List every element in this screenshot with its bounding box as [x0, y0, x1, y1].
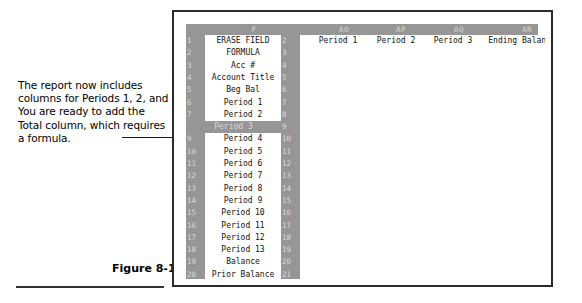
row-number-right[interactable]: 3 — [281, 47, 300, 59]
row-number-left[interactable]: 12 — [186, 170, 205, 182]
field-name-cell[interactable]: Period 6 — [205, 158, 281, 170]
row-number-left[interactable]: 5 — [186, 84, 205, 96]
right-row-number-strip: 23456789101112131415161718192021 — [281, 35, 300, 279]
row-number-right[interactable]: 10 — [281, 133, 300, 145]
field-name-column: ERASE FIELDFORMULAAcc #Account TitleBeg … — [205, 35, 281, 279]
column-header-band: FAOAPAQAR — [186, 24, 538, 35]
row-number-right[interactable]: 13 — [281, 170, 300, 182]
row-number-right[interactable]: 4 — [281, 60, 300, 72]
spreadsheet-viewport: FAOAPAQAR 123456789101112131415161718192… — [180, 18, 545, 279]
row-number-left[interactable]: 6 — [186, 97, 205, 109]
row-number-left[interactable]: 3 — [186, 60, 205, 72]
row-number-left[interactable]: 4 — [186, 72, 205, 84]
field-name-cell[interactable]: Period 13 — [205, 244, 281, 256]
row-number-left[interactable]: 16 — [186, 220, 205, 232]
field-name-cell[interactable]: Beg Bal — [205, 84, 281, 96]
row-number-right[interactable]: 21 — [281, 269, 300, 279]
field-name-cell[interactable]: Period 8 — [205, 183, 281, 195]
column-letter-ap[interactable]: AP — [376, 24, 426, 35]
field-name-cell[interactable]: Acc # — [205, 60, 281, 72]
figure-divider-rule — [16, 286, 164, 288]
row-number-right[interactable]: 9 — [281, 121, 300, 133]
field-name-cell[interactable]: Period 11 — [205, 220, 281, 232]
field-name-cell[interactable]: Period 12 — [205, 232, 281, 244]
row-number-right[interactable]: 8 — [281, 109, 300, 121]
period-header-cell[interactable]: Ending Balance — [472, 35, 545, 47]
left-row-number-strip: 1234567891011121314151617181920 — [186, 35, 205, 279]
row-number-right[interactable]: 5 — [281, 72, 300, 84]
field-name-cell[interactable]: Period 4 — [205, 133, 281, 145]
field-name-cell[interactable]: Period 2 — [205, 109, 281, 121]
row-number-left[interactable]: 17 — [186, 232, 205, 244]
caption-text: The report now includes columns for Peri… — [18, 79, 170, 145]
row-number-left[interactable]: 2 — [186, 47, 205, 59]
field-name-cell[interactable]: Account Title — [205, 72, 281, 84]
row-number-left[interactable]: 11 — [186, 158, 205, 170]
row-number-left[interactable]: 18 — [186, 244, 205, 256]
row-number-right[interactable]: 14 — [281, 183, 300, 195]
column-letter-ao[interactable]: AO — [319, 24, 369, 35]
period-header-cell[interactable]: Period 1 — [306, 35, 370, 47]
row-number-left[interactable]: 13 — [186, 183, 205, 195]
field-name-cell[interactable]: Period 10 — [205, 207, 281, 219]
row-number-right[interactable]: 17 — [281, 220, 300, 232]
field-name-cell[interactable]: Period 9 — [205, 195, 281, 207]
caption-line: You are ready to add the — [18, 105, 170, 118]
row-number-right[interactable]: 15 — [281, 195, 300, 207]
field-name-cell[interactable]: Period 1 — [205, 97, 281, 109]
field-name-cell[interactable]: Prior Balance — [205, 269, 281, 279]
row-number-left[interactable]: 20 — [186, 269, 205, 279]
caption-line: columns for Periods 1, 2, and 3. — [18, 92, 170, 105]
row-number-left[interactable]: 19 — [186, 256, 205, 268]
row-number-left[interactable]: 9 — [186, 133, 205, 145]
caption-line: a formula. — [18, 132, 170, 145]
row-number-left[interactable]: 14 — [186, 195, 205, 207]
screenshot-frame: FAOAPAQAR 123456789101112131415161718192… — [172, 10, 553, 287]
column-letter-f[interactable]: F — [224, 24, 284, 35]
row-number-right[interactable]: 7 — [281, 97, 300, 109]
row-number-right[interactable]: 16 — [281, 207, 300, 219]
caption-line: Total column, which requires — [18, 119, 170, 132]
row-number-right[interactable]: 12 — [281, 158, 300, 170]
row-number-left[interactable]: 15 — [186, 207, 205, 219]
row-number-left[interactable]: 1 — [186, 35, 205, 47]
field-name-cell[interactable]: Period 5 — [205, 146, 281, 158]
column-letter-ar[interactable]: AR — [491, 24, 545, 35]
row-number-right[interactable]: 11 — [281, 146, 300, 158]
row-number-right[interactable]: 2 — [281, 35, 300, 47]
row-number-right[interactable]: 6 — [281, 84, 300, 96]
field-name-cell[interactable]: Balance — [205, 256, 281, 268]
row-number-right[interactable]: 19 — [281, 244, 300, 256]
column-letter-aq[interactable]: AQ — [434, 24, 484, 35]
period-header-cell[interactable]: Period 2 — [364, 35, 428, 47]
caption-line: The report now includes — [18, 79, 170, 92]
field-name-cell[interactable]: FORMULA — [205, 47, 281, 59]
row-number-left[interactable]: 10 — [186, 146, 205, 158]
field-name-cell[interactable]: Period 7 — [205, 170, 281, 182]
row-number-left[interactable]: 7 — [186, 109, 205, 121]
row-number-right[interactable]: 18 — [281, 232, 300, 244]
field-name-cell[interactable]: ERASE FIELD — [205, 35, 281, 47]
row-number-right[interactable]: 20 — [281, 256, 300, 268]
field-name-cell[interactable]: Period 3 — [186, 121, 281, 133]
